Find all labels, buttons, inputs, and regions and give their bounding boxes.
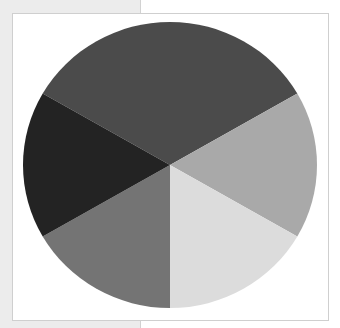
pie-chart [0, 0, 340, 328]
pie-slices [23, 22, 317, 308]
